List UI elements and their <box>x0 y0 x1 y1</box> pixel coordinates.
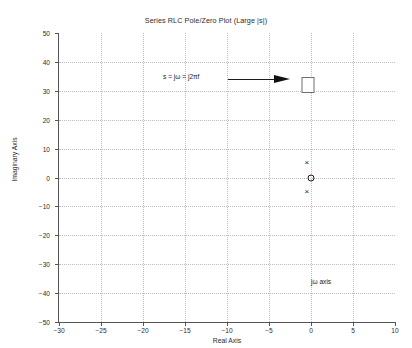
y-tick <box>55 322 59 323</box>
y-tick <box>55 33 59 34</box>
x-axis-label: Real Axis <box>59 337 395 344</box>
gridline-horizontal <box>59 149 395 150</box>
y-tick-label: 30 <box>0 87 50 94</box>
y-tick-label: 10 <box>0 145 50 152</box>
gridline-horizontal <box>59 91 395 92</box>
y-axis-label: Imaginary Axis <box>11 120 18 200</box>
x-tick-label: −25 <box>95 327 106 334</box>
x-tick-label: 5 <box>351 327 355 334</box>
annotation-s-definition: s = jω = j2πf <box>163 73 199 80</box>
y-tick-label: 50 <box>0 30 50 37</box>
y-tick <box>55 206 59 207</box>
x-tick <box>227 322 228 326</box>
x-tick <box>311 322 312 326</box>
arrow-head <box>274 75 290 83</box>
y-tick <box>55 264 59 265</box>
y-tick-label: 40 <box>0 58 50 65</box>
y-tick-label: −50 <box>0 319 50 326</box>
x-tick-label: −20 <box>137 327 148 334</box>
x-tick-label: −5 <box>265 327 273 334</box>
evaluation-point-marker <box>302 77 315 93</box>
y-tick <box>55 149 59 150</box>
x-tick <box>269 322 270 326</box>
y-tick <box>55 178 59 179</box>
gridline-horizontal <box>59 264 395 265</box>
x-tick <box>101 322 102 326</box>
y-tick-label: −30 <box>0 261 50 268</box>
y-tick-label: −20 <box>0 232 50 239</box>
y-tick-label: −40 <box>0 290 50 297</box>
x-tick <box>395 322 396 326</box>
x-tick-label: −10 <box>221 327 232 334</box>
x-tick-label: −15 <box>179 327 190 334</box>
plot-area <box>59 33 395 322</box>
y-tick <box>55 293 59 294</box>
y-tick-label: −10 <box>0 203 50 210</box>
pole-marker: × <box>304 188 309 196</box>
y-tick-label: 20 <box>0 116 50 123</box>
y-tick <box>55 62 59 63</box>
annotation-arrow-icon <box>228 78 290 81</box>
gridline-horizontal <box>59 235 395 236</box>
y-tick <box>55 91 59 92</box>
y-tick-label: 0 <box>0 174 50 181</box>
arrow-shaft <box>228 79 278 80</box>
gridline-horizontal <box>59 120 395 121</box>
page-title: Series RLC Pole/Zero Plot (Large |s|) <box>0 16 412 25</box>
gridline-horizontal <box>59 293 395 294</box>
x-tick <box>185 322 186 326</box>
zero-marker <box>308 174 315 181</box>
x-tick-label: 0 <box>309 327 313 334</box>
gridline-horizontal <box>59 62 395 63</box>
pole-zero-figure: Series RLC Pole/Zero Plot (Large |s|) −3… <box>0 0 412 348</box>
x-tick <box>143 322 144 326</box>
y-tick <box>55 235 59 236</box>
x-tick-label: 10 <box>391 327 398 334</box>
gridline-horizontal <box>59 178 395 179</box>
gridline-horizontal <box>59 206 395 207</box>
y-tick <box>55 120 59 121</box>
annotation-jw-axis: jω axis <box>311 278 331 285</box>
pole-marker: × <box>304 159 309 167</box>
x-tick-label: −30 <box>53 327 64 334</box>
x-tick <box>59 322 60 326</box>
x-tick <box>353 322 354 326</box>
